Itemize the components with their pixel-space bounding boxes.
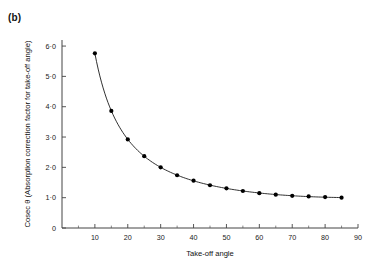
y-tick-label: 6·0 bbox=[46, 42, 56, 51]
x-axis-ticks bbox=[78, 224, 358, 228]
x-tick-label: 90 bbox=[354, 233, 362, 242]
x-tick-label: 20 bbox=[124, 233, 132, 242]
y-tick-label: 4·0 bbox=[46, 102, 56, 111]
curve-line bbox=[95, 53, 342, 197]
y-tick-label: 5·0 bbox=[46, 72, 56, 81]
chart-canvas: 01·02·03·04·05·06·0 102030405060708090 T… bbox=[0, 0, 377, 273]
y-axis: 01·02·03·04·05·06·0 bbox=[46, 40, 66, 233]
x-axis: 102030405060708090 bbox=[62, 224, 362, 242]
data-point bbox=[208, 183, 212, 187]
x-tick-label: 50 bbox=[222, 233, 230, 242]
x-axis-tick-labels: 102030405060708090 bbox=[91, 233, 362, 242]
y-tick-label: 0 bbox=[52, 224, 56, 233]
data-point bbox=[224, 186, 228, 190]
data-point bbox=[191, 179, 195, 183]
data-point-markers bbox=[93, 51, 344, 200]
data-point bbox=[290, 194, 294, 198]
y-tick-label: 2·0 bbox=[46, 163, 56, 172]
y-axis-ticks bbox=[62, 46, 66, 228]
y-tick-label: 3·0 bbox=[46, 133, 56, 142]
x-axis-title: Take-off angle bbox=[186, 249, 234, 258]
x-tick-label: 40 bbox=[190, 233, 198, 242]
data-point bbox=[241, 189, 245, 193]
y-axis-tick-labels: 01·02·03·04·05·06·0 bbox=[46, 42, 56, 233]
data-point bbox=[126, 137, 130, 141]
data-point bbox=[142, 154, 146, 158]
y-axis-title: Cosec θ (Absorption correction factor fo… bbox=[23, 40, 32, 227]
data-series-cosec-theta bbox=[93, 51, 344, 200]
data-point bbox=[274, 193, 278, 197]
data-point bbox=[109, 109, 113, 113]
figure-panel: (b) 01·02·03·04·05·06·0 1020304050607080… bbox=[0, 0, 377, 273]
x-tick-label: 70 bbox=[288, 233, 296, 242]
data-point bbox=[323, 195, 327, 199]
data-point bbox=[93, 51, 97, 55]
x-tick-label: 30 bbox=[157, 233, 165, 242]
x-tick-label: 80 bbox=[321, 233, 329, 242]
data-point bbox=[159, 165, 163, 169]
data-point bbox=[339, 196, 343, 200]
data-point bbox=[307, 194, 311, 198]
x-tick-label: 10 bbox=[91, 233, 99, 242]
data-point bbox=[257, 191, 261, 195]
y-tick-label: 1·0 bbox=[46, 193, 56, 202]
x-tick-label: 60 bbox=[255, 233, 263, 242]
data-point bbox=[175, 173, 179, 177]
